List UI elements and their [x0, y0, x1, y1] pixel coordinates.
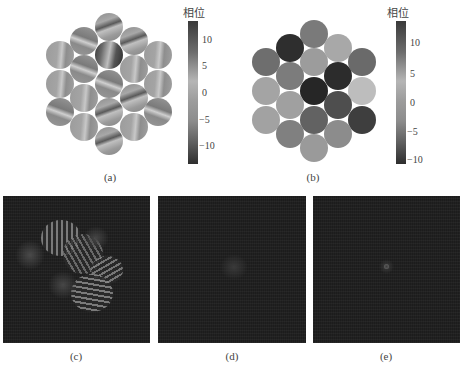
- caption-d: (d): [226, 350, 239, 362]
- caption-b: (b): [307, 171, 320, 183]
- colorbar-title-b: 相位: [387, 4, 409, 20]
- colorbar-tick: 0: [410, 97, 415, 108]
- colorbar-tick: −5: [407, 126, 418, 137]
- colorbar-tick: 5: [410, 68, 415, 79]
- fiber-core-phase: [348, 48, 376, 76]
- panel-b: 相位 10 5 0 −5 −10 (b): [0, 0, 462, 190]
- far-field-image-e: [313, 196, 460, 343]
- fiber-core-phase: [300, 134, 328, 162]
- colorbar-tick: 10: [410, 37, 420, 48]
- colorbar-b: [396, 21, 406, 164]
- far-field-image-c: [3, 196, 150, 343]
- fiber-core-phase: [324, 120, 352, 148]
- colorbar-tick: −10: [407, 154, 423, 165]
- fiber-core-phase: [348, 106, 376, 134]
- caption-e: (e): [380, 350, 392, 362]
- far-field-image-d: [158, 196, 306, 343]
- caption-c: (c): [70, 350, 82, 362]
- fiber-core-phase: [348, 77, 376, 105]
